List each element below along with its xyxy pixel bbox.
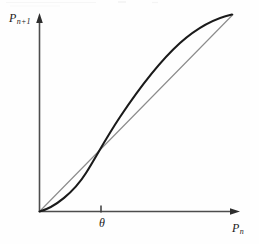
- plot-canvas: [0, 0, 259, 244]
- x-axis-label-base: P: [232, 221, 239, 235]
- y-axis-label: Pn+1: [9, 9, 31, 26]
- x-axis-label: Pn: [232, 219, 244, 236]
- scan-artifacts: [6, 2, 158, 6]
- y-axis-label-base: P: [9, 11, 16, 25]
- figure-root: Pn+1 Pn θ: [0, 0, 259, 244]
- x-axis-arrowhead: [230, 208, 240, 215]
- y-axis-arrowhead: [36, 13, 43, 23]
- x-axis-label-subscript: n: [240, 227, 244, 236]
- theta-tick-label: θ: [95, 217, 109, 229]
- identity-line: [40, 15, 234, 212]
- y-axis-label-subscript: n+1: [17, 17, 31, 26]
